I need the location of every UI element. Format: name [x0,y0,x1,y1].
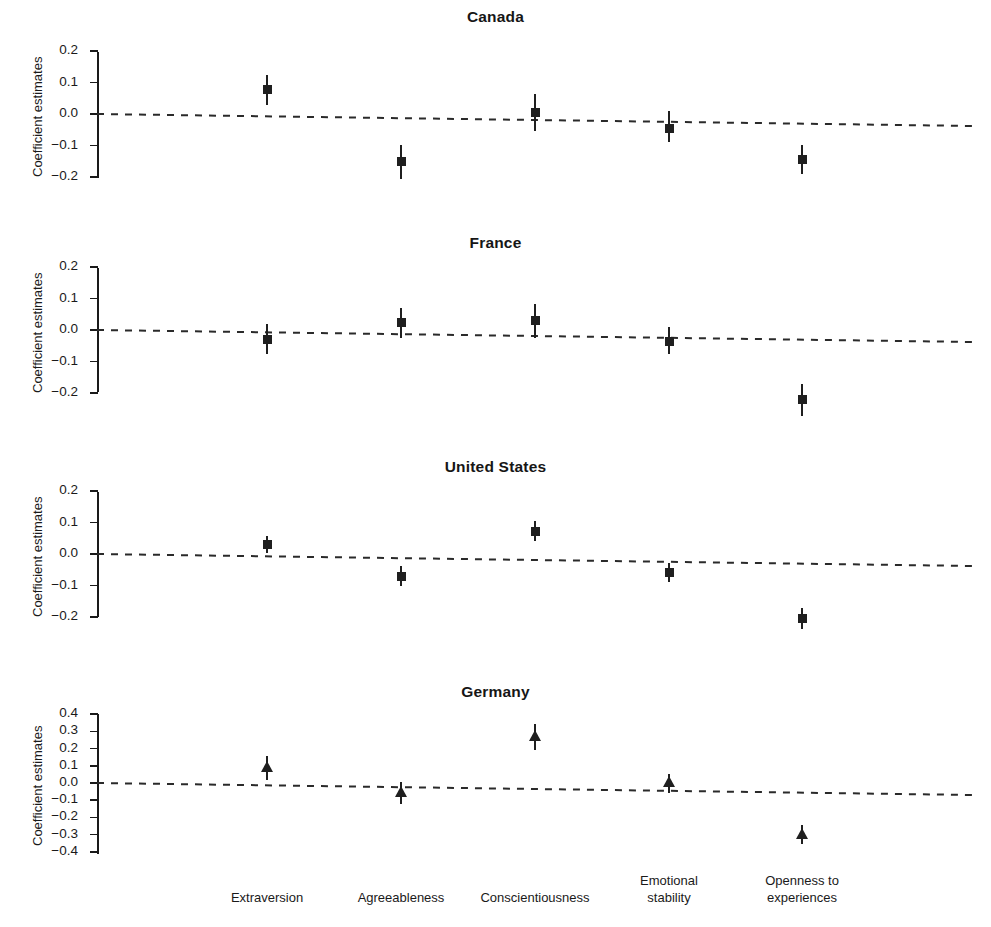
y-axis-tick-label: 0.3 [30,722,78,737]
y-axis-tick [90,817,98,819]
coefficient-plot-figure: CanadaCoefficient estimates0.20.10.0−0.1… [0,0,991,927]
y-axis-tick-label: 0.0 [30,774,78,789]
y-axis-tick-label: −0.3 [30,826,78,841]
panel-germany: GermanyCoefficient estimates0.40.30.20.1… [0,0,991,927]
y-axis-tick-label: −0.2 [30,808,78,823]
x-axis-category-label: Openness toexperiences [717,872,887,906]
y-axis-tick [90,765,98,767]
data-point-marker-triangle [261,761,273,772]
y-axis-tick-label: −0.4 [30,843,78,858]
y-axis-tick [90,782,98,784]
y-axis-tick [90,834,98,836]
data-point-marker-triangle [529,730,541,741]
y-axis-tick [90,799,98,801]
zero-reference-line [0,0,991,927]
y-axis-tick-label: 0.2 [30,740,78,755]
y-axis-tick [90,713,98,715]
y-axis-tick [90,731,98,733]
x-axis-category-line: experiences [717,889,887,906]
y-axis-tick-label: 0.1 [30,757,78,772]
panel-title: Germany [0,683,991,701]
y-axis-tick-label: 0.4 [30,705,78,720]
data-point-marker-triangle [395,786,407,797]
x-axis-category-line: Openness to [717,872,887,889]
y-axis-tick-label: −0.1 [30,791,78,806]
y-axis-tick [90,748,98,750]
data-point-marker-triangle [663,776,675,787]
y-axis-tick [90,851,98,853]
data-point-marker-triangle [796,828,808,839]
